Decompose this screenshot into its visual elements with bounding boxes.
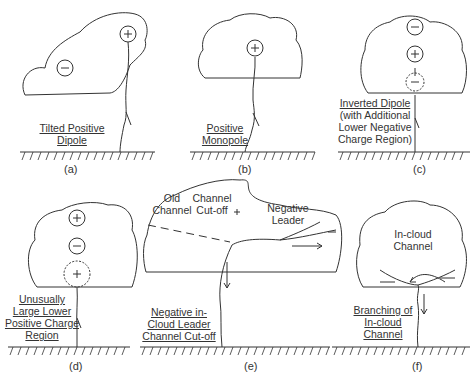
cloud-b [198, 14, 302, 78]
channel-c [415, 95, 419, 152]
title-d-line3: Positive Charge [5, 317, 79, 329]
note-neg-line1: Negative [267, 202, 308, 214]
title-b: Positive Monopole [195, 122, 255, 146]
note-in-line2: Channel [393, 240, 432, 252]
channel-e [220, 222, 336, 347]
note-cut-line1: Channel [192, 192, 231, 204]
title-e-line2: Cloud Leader [147, 318, 210, 330]
title-f-line2: In-cloud [364, 316, 401, 328]
title-e-line1: Negative in- [151, 306, 207, 318]
caption-a: (a) [64, 163, 77, 175]
arrow-e-right [292, 243, 322, 249]
note-in-line1: In-cloud [394, 228, 431, 240]
note-old-line2: Channel [152, 204, 191, 216]
title-c-line1: Inverted Dipole [340, 97, 411, 109]
title-d-line4: Region [25, 329, 58, 341]
title-c: Inverted Dipole (with Additional Lower N… [335, 97, 415, 145]
note-old-channel: Old Channel [150, 192, 194, 216]
arrow-f-curve [410, 275, 445, 283]
note-cut-line2: Cut-off [196, 204, 227, 216]
title-f-line3: Channel [363, 328, 402, 340]
title-b-line2: Monopole [202, 134, 248, 146]
note-neg-line2: Leader [272, 214, 305, 226]
note-incloud-channel: In-cloud Channel [388, 228, 438, 252]
title-d-line2: Large Lower [13, 305, 71, 317]
caption-f: (f) [412, 360, 422, 372]
title-a: Tilted Positive Dipole [22, 122, 122, 146]
title-c-line4: Charge Region) [338, 133, 412, 145]
arrow-e-down [224, 262, 230, 288]
title-f-line1: Branching of [354, 304, 413, 316]
title-e: Negative in- Cloud Leader Channel Cut-of… [140, 306, 218, 342]
note-negative-leader: Negative Leader [263, 202, 313, 226]
title-c-line3: Lower Negative [339, 121, 412, 133]
arrow-f-down [421, 294, 427, 314]
title-d: Unusually Large Lower Positive Charge Re… [2, 293, 82, 341]
title-f: Branching of In-cloud Channel [352, 304, 414, 340]
note-old-line1: Old [164, 192, 180, 204]
title-a-line1: Tilted Positive [40, 122, 105, 134]
title-e-line3: Channel Cut-off [142, 330, 215, 342]
title-a-line2: Dipole [57, 134, 87, 146]
charge-symbols [57, 19, 424, 287]
caption-d: (d) [69, 360, 82, 372]
caption-b: (b) [238, 163, 251, 175]
title-c-line2: (with Additional [340, 109, 411, 121]
cloud-d [28, 203, 137, 287]
title-b-line1: Positive [207, 122, 244, 134]
caption-c: (c) [413, 163, 426, 175]
title-d-line1: Unusually [19, 293, 65, 305]
caption-e: (e) [244, 360, 257, 372]
note-channel-cutoff: Channel Cut-off [190, 192, 234, 216]
channel-e-old [148, 225, 230, 242]
